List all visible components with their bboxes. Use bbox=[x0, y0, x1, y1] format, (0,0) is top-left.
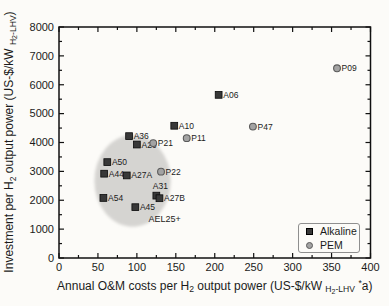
data-point-label-p11: P11 bbox=[191, 133, 206, 143]
alkaline-square-icon bbox=[306, 228, 313, 235]
x-tick-label: 150 bbox=[167, 261, 185, 273]
data-point-p47 bbox=[250, 123, 257, 130]
x-tick-label: 50 bbox=[92, 261, 104, 273]
data-point-label-a44: A44 bbox=[109, 169, 124, 179]
x-tick-label: 350 bbox=[322, 261, 340, 273]
y-tick-label: 6000 bbox=[30, 79, 54, 91]
data-point-a36 bbox=[126, 133, 133, 140]
y-tick-label: 4000 bbox=[30, 136, 54, 148]
x-axis-label: Annual O&M costs per H2 output power (US… bbox=[57, 278, 372, 295]
y-tick-label: 2000 bbox=[30, 194, 54, 206]
scatter-chart-figure: 0501001502002503003504000100020003000400… bbox=[0, 0, 389, 306]
legend: Alkaline PEM bbox=[298, 223, 360, 253]
x-tick-label: 0 bbox=[56, 261, 62, 273]
y-tick-label: 0 bbox=[48, 252, 54, 264]
legend-item-pem: PEM bbox=[306, 239, 359, 252]
data-point-a50 bbox=[104, 159, 111, 166]
legend-label-alkaline: Alkaline bbox=[320, 225, 357, 238]
data-point-p21 bbox=[150, 140, 157, 147]
data-point-label-a45: A45 bbox=[140, 202, 155, 212]
x-tick-label: 250 bbox=[245, 261, 263, 273]
data-point-a27a bbox=[123, 172, 130, 179]
data-point-p22 bbox=[158, 168, 165, 175]
x-tick-label: 300 bbox=[283, 261, 301, 273]
pem-circle-icon bbox=[306, 242, 313, 249]
annotation-ael25: AEL25+ bbox=[149, 214, 181, 224]
data-point-label-a27a: A27A bbox=[131, 170, 152, 180]
data-point-p09 bbox=[334, 65, 341, 72]
y-tick-label: 1000 bbox=[30, 223, 54, 235]
x-tick-label: 200 bbox=[206, 261, 224, 273]
data-point-p11 bbox=[183, 135, 190, 142]
scatter-plot-canvas: 0501001502002503003504000100020003000400… bbox=[0, 0, 389, 306]
y-tick-label: 3000 bbox=[30, 165, 54, 177]
data-point-label-p09: P09 bbox=[342, 63, 357, 73]
data-point-label-p22: P22 bbox=[166, 167, 181, 177]
data-point-a06 bbox=[215, 91, 222, 98]
data-point-label-a10: A10 bbox=[179, 121, 194, 131]
data-point-a27b bbox=[156, 195, 163, 202]
data-point-label-a54: A54 bbox=[108, 193, 123, 203]
x-tick-label: 100 bbox=[128, 261, 146, 273]
data-point-label-a50: A50 bbox=[112, 157, 127, 167]
data-point-label-a06: A06 bbox=[223, 90, 238, 100]
data-point-label-a31: A31 bbox=[153, 181, 168, 191]
data-point-a44 bbox=[101, 170, 108, 177]
data-point-label-a27b: A27B bbox=[164, 193, 185, 203]
legend-label-pem: PEM bbox=[320, 239, 343, 252]
y-axis-label: Investment per H2 output power (US-$/kW … bbox=[2, 11, 18, 272]
x-tick-label: 400 bbox=[361, 261, 379, 273]
data-point-a54 bbox=[100, 195, 107, 202]
data-point-a10 bbox=[171, 122, 178, 129]
data-point-a26 bbox=[133, 141, 140, 148]
y-tick-label: 8000 bbox=[30, 21, 54, 33]
legend-item-alkaline: Alkaline bbox=[306, 225, 359, 238]
data-point-label-p21: P21 bbox=[158, 138, 173, 148]
y-tick-label: 5000 bbox=[30, 107, 54, 119]
data-point-a45 bbox=[132, 204, 139, 211]
y-tick-label: 7000 bbox=[30, 50, 54, 62]
data-point-label-p47: P47 bbox=[258, 122, 273, 132]
